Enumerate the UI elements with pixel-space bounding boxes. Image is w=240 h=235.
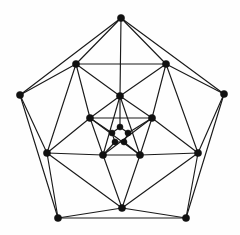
graph-vertex[interactable] bbox=[136, 151, 143, 158]
graph-vertex[interactable] bbox=[72, 60, 79, 67]
graph-vertex[interactable] bbox=[182, 214, 189, 221]
graph-vertex[interactable] bbox=[99, 151, 106, 158]
graph-vertex[interactable] bbox=[118, 204, 125, 211]
graph-vertex[interactable] bbox=[117, 124, 123, 130]
graph-vertex[interactable] bbox=[117, 14, 124, 21]
graph-vertex[interactable] bbox=[16, 91, 23, 98]
graph-vertex[interactable] bbox=[43, 149, 50, 156]
graph-vertex[interactable] bbox=[125, 130, 131, 136]
graph-vertex[interactable] bbox=[220, 90, 227, 97]
graph-vertex[interactable] bbox=[121, 139, 127, 145]
graph-vertex[interactable] bbox=[86, 114, 93, 121]
graph-canvas bbox=[0, 0, 240, 235]
graph-vertex[interactable] bbox=[54, 214, 61, 221]
graph-vertex[interactable] bbox=[116, 92, 123, 99]
graph-figure bbox=[0, 0, 240, 235]
graph-vertex[interactable] bbox=[109, 130, 115, 136]
graph-vertex[interactable] bbox=[148, 114, 155, 121]
graph-vertex[interactable] bbox=[112, 139, 118, 145]
graph-vertex[interactable] bbox=[162, 60, 169, 67]
graph-vertex[interactable] bbox=[194, 149, 201, 156]
